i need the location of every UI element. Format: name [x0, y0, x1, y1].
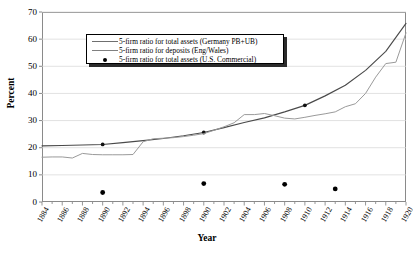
legend-item: 5-firm ratio for deposits (Eng/Wales): [91, 46, 280, 55]
line-icon: [92, 41, 118, 42]
series-marker: [101, 143, 105, 147]
scatter-point: [282, 182, 287, 187]
legend-item-label: 5-firm ratio for total assets (Germany P…: [119, 38, 257, 46]
chart-legend: 5-firm ratio for total assets (Germany P…: [86, 34, 284, 64]
dot-icon: [103, 58, 107, 62]
legend-item-label: 5-firm ratio for total assets (U.S. Comm…: [119, 56, 256, 64]
scatter-point: [201, 181, 206, 186]
legend-item-label: 5-firm ratio for deposits (Eng/Wales): [119, 47, 228, 55]
legend-line-swatch-icon: [91, 41, 119, 42]
line-icon: [92, 50, 118, 51]
series-marker: [303, 103, 307, 107]
scatter-point: [333, 187, 338, 192]
scatter-point: [100, 190, 105, 195]
legend-line-swatch-icon: [91, 50, 119, 51]
legend-dot-marker-icon: [91, 58, 119, 62]
legend-item: 5-firm ratio for total assets (Germany P…: [91, 37, 280, 46]
legend-item: 5-firm ratio for total assets (U.S. Comm…: [91, 55, 280, 64]
chart-container: Percent Year 010203040506070 18841886188…: [0, 0, 414, 254]
